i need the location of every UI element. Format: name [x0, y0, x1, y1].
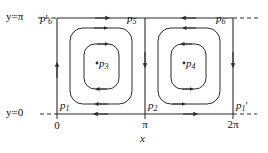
xtick-pi: π [139, 119, 151, 130]
x-axis-label: x [140, 133, 145, 144]
vertex-label-p1-prime: p1′ [236, 100, 248, 113]
vertex-label-p2: p2 [148, 100, 157, 113]
vertex-label-p6: p6 [216, 13, 225, 26]
p2-sub: 2 [154, 104, 158, 113]
center-label-p4: p4 [186, 58, 195, 71]
center-points [96, 62, 186, 65]
p1-prime-mark: ′ [245, 99, 247, 111]
phase-portrait-figure: y=π y=0 p′6 p5 p6 p1 p2 p1′ p3 p4 0 π 2π… [0, 0, 268, 153]
p1-sub: 1 [66, 104, 70, 113]
p4-sub: 4 [192, 62, 196, 71]
x-axis-name: x [140, 132, 145, 144]
p3-sub: 3 [105, 62, 109, 71]
y-bottom-axis-label: y=0 [6, 107, 23, 118]
y-top-axis-label: y=π [6, 11, 23, 22]
vertex-label-p6-prime: p′6 [40, 13, 52, 26]
vertex-label-p5: p5 [127, 13, 136, 26]
p5-sub: 5 [133, 17, 137, 26]
center-dot-p4 [183, 62, 186, 65]
center-dot-p3 [96, 62, 99, 65]
vertex-label-p1: p1 [60, 100, 69, 113]
p6-sub: 6 [222, 17, 226, 26]
center-label-p3: p3 [99, 58, 108, 71]
xtick-2pi: 2π [224, 119, 242, 130]
xtick-0: 0 [51, 120, 63, 131]
p6-prime-sub: 6 [48, 17, 52, 26]
